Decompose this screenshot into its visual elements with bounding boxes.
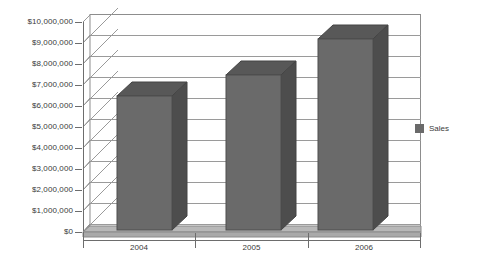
x-tick-label-2004: 2004	[83, 243, 195, 253]
y-tick-mark	[75, 148, 82, 149]
y-tick-mark	[75, 106, 82, 107]
y-tick-mark	[75, 211, 82, 212]
plot-back-wall	[90, 14, 421, 226]
y-tick-mark	[75, 232, 82, 233]
y-tick-mark	[75, 190, 82, 191]
chart-legend: Sales	[415, 124, 449, 133]
y-tick-label: $6,000,000	[0, 102, 73, 110]
gridline	[90, 161, 421, 162]
gridline	[90, 182, 421, 183]
y-tick-mark	[75, 43, 82, 44]
sales-column-chart: $10,000,000 $9,000,000 $8,000,000 $7,000…	[0, 0, 490, 269]
gridline	[90, 119, 421, 120]
x-axis-line	[83, 240, 421, 241]
y-tick-mark	[75, 85, 82, 86]
x-tick-label-2005: 2005	[195, 243, 308, 253]
y-axis-spine-front	[83, 22, 84, 233]
gridline	[90, 224, 421, 225]
y-tick-label: $7,000,000	[0, 81, 73, 89]
gridline	[90, 77, 421, 78]
legend-swatch-sales	[415, 124, 424, 133]
gridline	[90, 140, 421, 141]
y-tick-label: $5,000,000	[0, 123, 73, 131]
gridline	[90, 203, 421, 204]
y-tick-mark	[75, 22, 82, 23]
y-tick-label: $0	[0, 228, 73, 236]
y-axis: $10,000,000 $9,000,000 $8,000,000 $7,000…	[0, 0, 73, 269]
gridline	[90, 98, 421, 99]
gridline	[90, 35, 421, 36]
y-tick-label: $9,000,000	[0, 39, 73, 47]
x-tick-mark	[420, 233, 421, 248]
legend-label-sales: Sales	[429, 124, 449, 133]
y-tick-mark	[75, 127, 82, 128]
y-tick-label: $8,000,000	[0, 60, 73, 68]
gridline	[90, 56, 421, 57]
y-tick-label: $10,000,000	[0, 18, 73, 26]
y-tick-label: $2,000,000	[0, 186, 73, 194]
y-tick-mark	[75, 64, 82, 65]
y-tick-mark	[75, 169, 82, 170]
x-tick-label-2006: 2006	[308, 243, 420, 253]
y-tick-label: $1,000,000	[0, 207, 73, 215]
y-tick-label: $3,000,000	[0, 165, 73, 173]
y-tick-label: $4,000,000	[0, 144, 73, 152]
